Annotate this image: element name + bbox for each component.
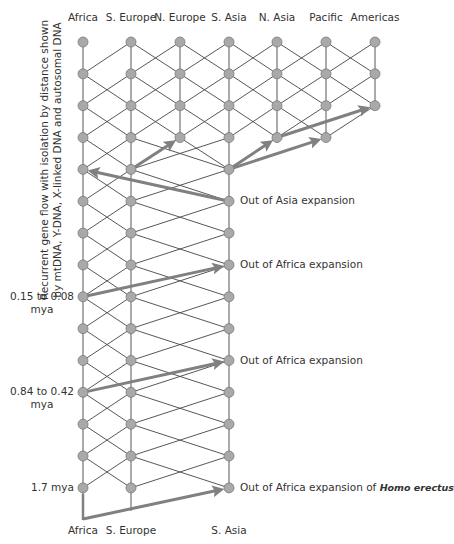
- node-s_asia-13: [224, 451, 234, 461]
- node-africa-3: [78, 133, 88, 143]
- node-africa-11: [78, 387, 88, 397]
- s-asia-to-pacific-arrow: [229, 140, 317, 169]
- node-n_europe-0: [175, 37, 185, 47]
- column-label-pacific: Pacific: [309, 11, 342, 23]
- node-pacific-2: [321, 101, 331, 111]
- column-label-americas: Americas: [351, 11, 400, 23]
- node-s_asia-5: [224, 196, 234, 206]
- bottom-label: Africa: [68, 524, 98, 536]
- node-pacific-3: [321, 133, 331, 143]
- side-annotation: Recurrent gene flow with isolation by di…: [38, 20, 63, 300]
- column-label-s_europe: S. Europe: [106, 11, 156, 23]
- side-annotation-line2: by mtDNA, Y-DNA, X-linked DNA and autoso…: [50, 20, 63, 300]
- node-s_europe-9: [126, 324, 136, 334]
- column-label-africa: Africa: [68, 11, 98, 23]
- node-n_europe-1: [175, 69, 185, 79]
- gene-flow-link: [326, 106, 375, 138]
- node-s_europe-7: [126, 260, 136, 270]
- time-label: 0.84 to 0.42mya: [10, 385, 74, 411]
- out-of-africa-homo-erectus-arrow: [83, 490, 220, 519]
- node-africa-12: [78, 419, 88, 429]
- node-s_europe-14: [126, 483, 136, 493]
- node-s_asia-1: [224, 69, 234, 79]
- node-s_europe-5: [126, 196, 136, 206]
- gene-flow-lines: [83, 42, 375, 519]
- event-label: Out of Asia expansion: [240, 194, 355, 206]
- node-n_asia-1: [272, 69, 282, 79]
- n-asia-to-americas-arrow: [277, 108, 366, 137]
- node-s_europe-6: [126, 228, 136, 238]
- node-s_asia-7: [224, 260, 234, 270]
- node-s_europe-11: [126, 387, 136, 397]
- event-label: Out of Africa expansion: [240, 258, 363, 270]
- node-africa-1: [78, 69, 88, 79]
- node-americas-1: [370, 69, 380, 79]
- node-s_europe-10: [126, 356, 136, 366]
- node-africa-5: [78, 196, 88, 206]
- node-n_asia-3: [272, 133, 282, 143]
- node-s_europe-1: [126, 69, 136, 79]
- s-asia-to-n-asia-arrow: [229, 143, 270, 170]
- node-africa-10: [78, 356, 88, 366]
- node-s_asia-12: [224, 419, 234, 429]
- event-label: Out of Africa expansion of Homo erectus: [240, 481, 454, 493]
- node-africa-9: [78, 324, 88, 334]
- node-s_asia-8: [224, 292, 234, 302]
- node-s_europe-4: [126, 164, 136, 174]
- node-americas-2: [370, 101, 380, 111]
- side-annotation-line1: Recurrent gene flow with isolation by di…: [38, 20, 51, 300]
- event-label: Out of Africa expansion: [240, 354, 363, 366]
- node-s_asia-4: [224, 164, 234, 174]
- node-s_asia-10: [224, 356, 234, 366]
- node-s_asia-0: [224, 37, 234, 47]
- node-africa-4: [78, 164, 88, 174]
- node-s_europe-3: [126, 133, 136, 143]
- node-s_europe-12: [126, 419, 136, 429]
- node-s_asia-2: [224, 101, 234, 111]
- column-label-n_asia: N. Asia: [259, 11, 296, 23]
- node-n_asia-2: [272, 101, 282, 111]
- node-n_asia-0: [272, 37, 282, 47]
- bottom-label: S. Europe: [106, 524, 156, 536]
- column-label-s_asia: S. Asia: [211, 11, 246, 23]
- node-s_europe-13: [126, 451, 136, 461]
- node-s_asia-11: [224, 387, 234, 397]
- node-s_europe-8: [126, 292, 136, 302]
- node-pacific-1: [321, 69, 331, 79]
- node-n_europe-3: [175, 133, 185, 143]
- node-africa-14: [78, 483, 88, 493]
- node-pacific-0: [321, 37, 331, 47]
- column-label-n_europe: N. Europe: [154, 11, 205, 23]
- node-africa-0: [78, 37, 88, 47]
- node-s_asia-9: [224, 324, 234, 334]
- node-s_europe-2: [126, 101, 136, 111]
- node-africa-13: [78, 451, 88, 461]
- node-s_europe-0: [126, 37, 136, 47]
- bottom-label: S. Asia: [211, 524, 246, 536]
- s-europe-to-n-europe-arrow: [131, 142, 172, 169]
- node-americas-0: [370, 37, 380, 47]
- node-africa-2: [78, 101, 88, 111]
- node-s_asia-14: [224, 483, 234, 493]
- node-n_europe-2: [175, 101, 185, 111]
- node-africa-6: [78, 228, 88, 238]
- gene-flow-link: [180, 138, 229, 170]
- time-label: 1.7 mya: [31, 481, 74, 494]
- node-africa-8: [78, 292, 88, 302]
- node-africa-7: [78, 260, 88, 270]
- node-s_asia-6: [224, 228, 234, 238]
- gene-flow-link: [83, 42, 131, 74]
- node-s_asia-3: [224, 133, 234, 143]
